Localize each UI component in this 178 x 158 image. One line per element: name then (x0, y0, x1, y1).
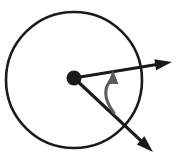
diagram-canvas (0, 0, 178, 158)
center-point (67, 71, 82, 86)
diagram-background (0, 0, 178, 158)
physics-circle-diagram (0, 0, 178, 158)
